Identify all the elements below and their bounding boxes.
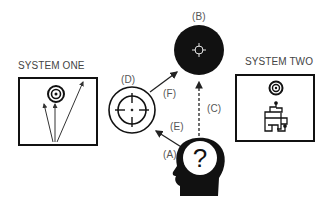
question-mark-icon: ? xyxy=(193,143,207,173)
label-b: (B) xyxy=(192,11,206,22)
label-e: (E) xyxy=(170,121,184,132)
system-two-title: SYSTEM TWO xyxy=(245,56,313,67)
label-c: (C) xyxy=(207,103,221,114)
system-one-panel xyxy=(19,78,97,145)
label-d: (D) xyxy=(121,74,135,85)
crosshair-target-d xyxy=(109,87,155,133)
label-a: (A) xyxy=(163,149,177,160)
goal-target-b xyxy=(174,25,224,75)
system-two-panel xyxy=(236,75,314,141)
label-f: (F) xyxy=(163,88,176,99)
system-one-box xyxy=(19,78,97,145)
diagram-canvas: ? xyxy=(0,0,332,208)
black-circle xyxy=(174,25,224,75)
system-one-title: SYSTEM ONE xyxy=(18,60,85,71)
